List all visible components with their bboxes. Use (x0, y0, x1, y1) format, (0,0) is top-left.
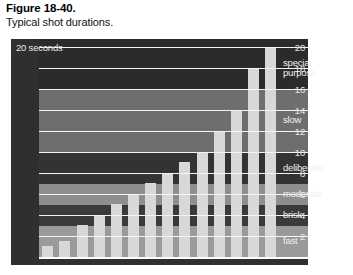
y-tick-14: 14 (281, 106, 305, 115)
plot-area: fastbriskmoderatedeliberateslowspecialpu… (11, 39, 308, 265)
y-axis (11, 39, 39, 265)
gridline-2 (39, 236, 308, 237)
y-axis-unit-label: 20 seconds (16, 43, 63, 52)
y-tick-6: 6 (281, 190, 305, 199)
bar (231, 110, 242, 257)
figure-number: Figure 18-40. (6, 2, 306, 15)
bar (197, 152, 208, 257)
axis-baseline (39, 257, 308, 259)
bar (111, 204, 122, 257)
band-label-line: slow (283, 115, 301, 126)
gridline-16 (39, 89, 308, 90)
gridline-12 (39, 131, 308, 132)
bar (128, 194, 139, 257)
chart-figure: fastbriskmoderatedeliberateslowspecialpu… (11, 39, 308, 265)
y-tick-8: 8 (281, 169, 305, 178)
y-tick-10: 10 (281, 148, 305, 157)
y-tick-16: 16 (281, 85, 305, 94)
y-tick-4: 4 (281, 211, 305, 220)
bar (179, 162, 190, 257)
gridline-18 (39, 68, 308, 69)
bar (248, 68, 259, 257)
band-label-slow: slow (283, 115, 301, 126)
figure-description: Typical shot durations. (6, 16, 306, 29)
bar (77, 225, 88, 257)
y-tick-12: 12 (281, 127, 305, 136)
gridline-20 (39, 47, 308, 48)
y-tick-18: 18 (281, 64, 305, 73)
gridline-8 (39, 173, 308, 174)
figure-page: Figure 18-40. Typical shot durations. fa… (0, 0, 353, 275)
figure-caption: Figure 18-40. Typical shot durations. (6, 2, 306, 29)
y-tick-2: 2 (281, 232, 305, 241)
bar (59, 241, 70, 257)
gridline-4 (39, 215, 308, 216)
gridline-14 (39, 110, 308, 111)
gridline-10 (39, 152, 308, 153)
gridline-6 (39, 194, 308, 195)
y-tick-20: 20 (281, 43, 305, 52)
bar (42, 246, 53, 257)
